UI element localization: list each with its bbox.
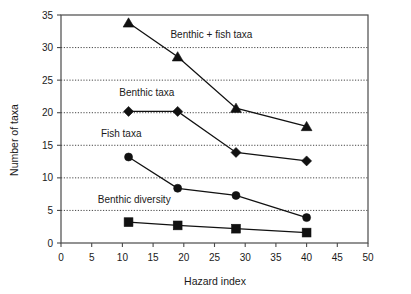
y-tick-label-25: 25 — [42, 75, 54, 86]
x-tick-label-35: 35 — [270, 252, 282, 263]
series-label-fish-taxa: Fish taxa — [101, 128, 142, 139]
x-tick-label-40: 40 — [301, 252, 313, 263]
x-tick-label-45: 45 — [332, 252, 344, 263]
series-label-benthic-taxa: Benthic taxa — [119, 87, 174, 98]
chart-container: 05101520253035 05101520253035404550 Bent… — [0, 0, 411, 294]
number-of-taxa-vs-hazard-index-chart: 05101520253035 05101520253035404550 Bent… — [0, 0, 411, 294]
data-point-square — [232, 224, 241, 233]
x-tick-label-5: 5 — [89, 252, 95, 263]
y-tick-label-35: 35 — [42, 10, 54, 21]
y-tick-label-15: 15 — [42, 140, 54, 151]
y-tick-label-0: 0 — [47, 238, 53, 249]
data-point-circle — [125, 153, 133, 161]
x-tick-label-50: 50 — [362, 252, 374, 263]
y-tick-label-30: 30 — [42, 42, 54, 53]
series-label-benthic-fish-taxa: Benthic + fish taxa — [170, 29, 252, 40]
y-tick-label-5: 5 — [47, 205, 53, 216]
series-label-benthic-diversity: Benthic diversity — [98, 194, 171, 205]
data-point-square — [302, 228, 311, 237]
data-point-circle — [232, 191, 240, 199]
x-tick-label-20: 20 — [178, 252, 190, 263]
data-point-circle — [174, 184, 182, 192]
y-axis-title: Number of taxa — [8, 104, 20, 176]
data-point-circle — [303, 214, 311, 222]
x-tick-label-0: 0 — [58, 252, 64, 263]
chart-background — [0, 0, 411, 294]
x-axis-title: Hazard index — [184, 275, 247, 287]
data-point-square — [124, 218, 133, 227]
x-tick-label-30: 30 — [240, 252, 252, 263]
data-point-square — [173, 221, 182, 230]
y-tick-label-20: 20 — [42, 107, 54, 118]
x-tick-label-10: 10 — [117, 252, 129, 263]
x-tick-label-15: 15 — [148, 252, 160, 263]
x-tick-label-25: 25 — [209, 252, 221, 263]
y-tick-label-10: 10 — [42, 172, 54, 183]
